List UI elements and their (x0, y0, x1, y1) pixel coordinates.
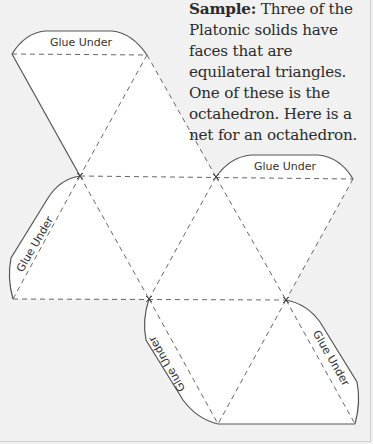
caption-label: Sample: (189, 0, 256, 18)
caption-text: Sample: Three of the Platonic solids hav… (189, 0, 369, 146)
glue-label-right-top: Glue Under (254, 160, 317, 173)
glue-label-top: Glue Under (50, 36, 113, 49)
caption-body: Three of the Platonic solids have faces … (189, 0, 357, 144)
